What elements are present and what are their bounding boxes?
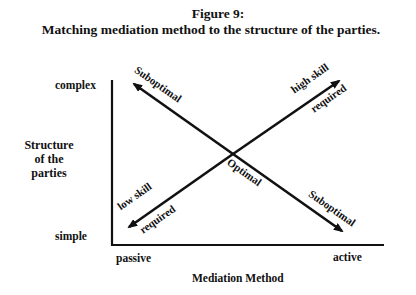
- y-axis-label-line: parties: [18, 166, 80, 180]
- y-tick-simple: simple: [55, 230, 87, 243]
- x-axis-label: Mediation Method: [192, 272, 284, 285]
- y-axis-label-line: Structure: [18, 138, 80, 152]
- y-axis-label: Structure of the parties: [18, 138, 80, 180]
- x-tick-active: active: [333, 251, 362, 264]
- y-axis-label-line: of the: [18, 152, 80, 166]
- x-tick-passive: passive: [116, 252, 151, 265]
- arrow-suboptimal-bottom-right: [233, 154, 342, 231]
- y-tick-complex: complex: [55, 79, 96, 92]
- arrow-high-skill: [233, 81, 339, 154]
